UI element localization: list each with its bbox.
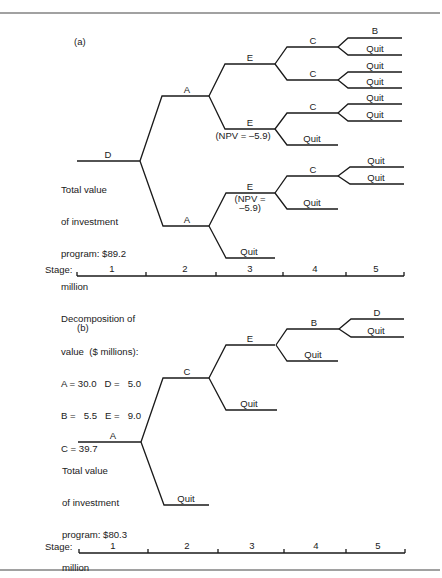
branch-label: B (311, 317, 317, 328)
branch-label: D (374, 307, 381, 318)
branch-label: C (310, 68, 317, 79)
stage-number: 3 (249, 540, 254, 551)
branch-label: C (310, 35, 317, 46)
branch-label: Quit (240, 246, 258, 257)
branch-label: C (310, 101, 317, 112)
branch-label: A (184, 214, 191, 225)
branch-label: E (247, 333, 253, 344)
info-line: million (61, 282, 141, 293)
branch-label: Quit (240, 398, 258, 409)
stage-number: 4 (312, 263, 317, 274)
info-line: A = 30.0 D = 5.0 (61, 379, 141, 390)
branch-label: Quit (177, 493, 195, 504)
branch-label: C (184, 366, 191, 377)
branch-label: A (184, 84, 191, 95)
stage-number: 5 (375, 540, 380, 551)
info-line: value ($ millions): (61, 347, 141, 358)
branch-label: Quit (366, 92, 384, 103)
info-line: million (62, 563, 142, 574)
npv-note: –5.9) (239, 202, 261, 213)
branch-label: Quit (367, 172, 385, 183)
branch-label: Quit (304, 349, 322, 360)
stage-number: 4 (313, 540, 318, 551)
stage-number: 2 (184, 540, 189, 551)
panel-b-value-summary: Total value of investment program: $80.3… (62, 444, 142, 578)
branch-label: Quit (366, 43, 384, 54)
branch-label: E (247, 52, 253, 63)
npv-note: (NPV = –5.9) (215, 130, 270, 141)
info-line: Total value (61, 185, 141, 196)
branch-label: Quit (367, 155, 385, 166)
branch-label: Quit (303, 133, 321, 144)
info-line: program: $89.2 (61, 249, 141, 260)
panel-a-value-summary: Total value of investment program: $89.2… (61, 163, 141, 465)
branch-label: E (247, 117, 253, 128)
info-line: B = 5.5 E = 9.0 (61, 411, 141, 422)
stage-number: 5 (373, 263, 378, 274)
branch-label: Quit (366, 76, 384, 87)
info-line: of investment (62, 498, 142, 509)
branch-label: D (105, 149, 112, 160)
branch-label: Quit (366, 109, 384, 120)
branch-label: E (247, 181, 253, 192)
panel-a-label: (a) (74, 36, 86, 47)
stage-number: 3 (247, 263, 252, 274)
branch-label: B (372, 25, 378, 36)
stage-number: 2 (182, 263, 187, 274)
info-line: Total value (62, 466, 142, 477)
info-line: Decomposition of (61, 314, 141, 325)
branch-label: C (310, 164, 317, 175)
branch-label: Quit (366, 60, 384, 71)
info-line: program: $80.3 (62, 530, 142, 541)
branch-label: Quit (303, 197, 321, 208)
info-line: of investment (61, 217, 141, 228)
branch-label: Quit (367, 325, 385, 336)
